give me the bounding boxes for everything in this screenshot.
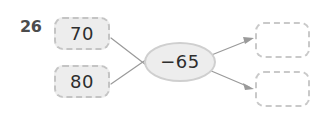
connector-line-operation-to-answer2 xyxy=(209,70,249,87)
answer-box-2[interactable] xyxy=(255,71,310,107)
arrowhead-to-answer1 xyxy=(243,37,254,44)
arrowhead-to-answer2 xyxy=(243,83,254,90)
connector-line-operation-to-answer1 xyxy=(209,40,249,56)
input-value-2: 80 xyxy=(70,73,94,91)
operation-label: −65 xyxy=(160,53,200,71)
worksheet-exercise: 26 70 80 −65 xyxy=(0,0,328,118)
answer-box-1[interactable] xyxy=(255,22,310,58)
input-value-box-2: 80 xyxy=(54,65,110,98)
operation-node: −65 xyxy=(144,42,216,82)
input-value-box-1: 70 xyxy=(54,17,110,50)
input-value-1: 70 xyxy=(70,25,94,43)
